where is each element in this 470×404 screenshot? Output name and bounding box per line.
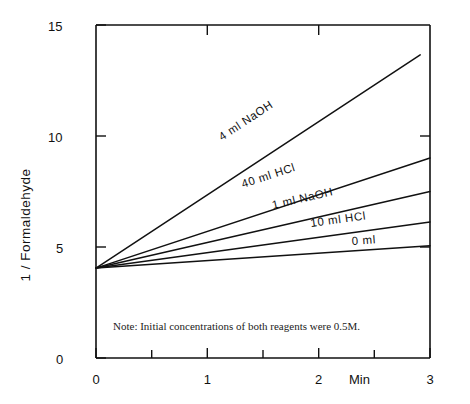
- curve-label-0ml: 0 ml: [351, 233, 376, 247]
- y-tick-label-5: 5: [56, 241, 63, 256]
- x-axis-unit-label: Min: [349, 372, 370, 387]
- y-tick-label-15: 15: [48, 19, 62, 34]
- note-annotation: Note: Initial concentrations of both rea…: [113, 320, 360, 332]
- y-tick-label-0: 0: [56, 352, 63, 367]
- plot-background: [0, 0, 470, 404]
- x-tick-label-3: 3: [426, 372, 433, 387]
- y-tick-label-10: 10: [48, 130, 62, 145]
- x-tick-label-0: 0: [92, 372, 99, 387]
- chart-container: 15 10 5 0 0 1 2 3 Min 1 / Formaldehyde 4…: [0, 0, 470, 404]
- x-tick-label-2: 2: [315, 372, 322, 387]
- x-tick-label-1: 1: [204, 372, 211, 387]
- y-axis-title: 1 / Formaldehyde: [18, 168, 33, 281]
- formaldehyde-rate-plot: 15 10 5 0 0 1 2 3 Min 1 / Formaldehyde 4…: [0, 0, 470, 404]
